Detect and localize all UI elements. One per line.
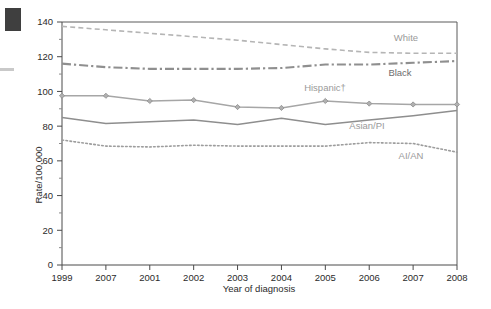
- series-line-asian-pi: [62, 111, 457, 125]
- y-tick-label: 120: [37, 51, 53, 62]
- series-marker: [454, 102, 459, 107]
- y-tick-label: 100: [37, 86, 53, 97]
- y-tick-label: 40: [42, 190, 53, 201]
- series-lines: [62, 26, 457, 152]
- line-chart-canvas: 020406080100120140 199920072001200220032…: [0, 0, 491, 309]
- x-tick-label: 2007: [403, 272, 424, 283]
- x-axis-title: Year of diagnosis: [223, 283, 296, 294]
- x-tick-label: 2008: [446, 272, 467, 283]
- x-tick-label: 2007: [95, 272, 116, 283]
- y-axis-title: Rate/100,000: [33, 146, 44, 203]
- series-marker: [191, 98, 196, 103]
- x-tick-label: 2006: [359, 272, 380, 283]
- y-tick-label: 60: [42, 155, 53, 166]
- x-tick-label: 2001: [139, 272, 160, 283]
- y-axis-ticks: [57, 22, 62, 265]
- series-line-hispanic: [62, 96, 457, 108]
- series-annotation-black: Black: [388, 67, 411, 78]
- x-tick-label: 2005: [315, 272, 336, 283]
- x-tick-label: 2004: [271, 272, 292, 283]
- series-annotation-white: White: [394, 32, 418, 43]
- series-annotation-asian-pi: Asian/PI: [349, 120, 384, 131]
- series-marker: [367, 101, 372, 106]
- x-tick-label: 2003: [227, 272, 248, 283]
- y-axis-tick-labels: 020406080100120140: [37, 16, 53, 270]
- x-tick-label: 1999: [51, 272, 72, 283]
- series-marker: [103, 93, 108, 98]
- x-tick-label: 2002: [183, 272, 204, 283]
- series-annotations: WhiteBlackHispanic†Asian/PIAI/AN: [304, 32, 423, 161]
- series-marker: [235, 104, 240, 109]
- series-annotation-ai-an: AI/AN: [399, 150, 424, 161]
- y-tick-label: 20: [42, 225, 53, 236]
- x-axis-tick-labels: 1999200720012002200320042005200620072008: [51, 272, 467, 283]
- series-marker: [279, 105, 284, 110]
- y-tick-label: 0: [48, 259, 53, 270]
- series-marker: [411, 102, 416, 107]
- series-marker: [323, 98, 328, 103]
- y-tick-label: 140: [37, 16, 53, 27]
- series-marker: [147, 98, 152, 103]
- series-annotation-hispanic: Hispanic†: [304, 82, 346, 93]
- x-axis-ticks: [62, 265, 457, 270]
- chart-figure: 020406080100120140 199920072001200220032…: [0, 0, 491, 309]
- y-tick-label: 80: [42, 121, 53, 132]
- series-marker: [59, 93, 64, 98]
